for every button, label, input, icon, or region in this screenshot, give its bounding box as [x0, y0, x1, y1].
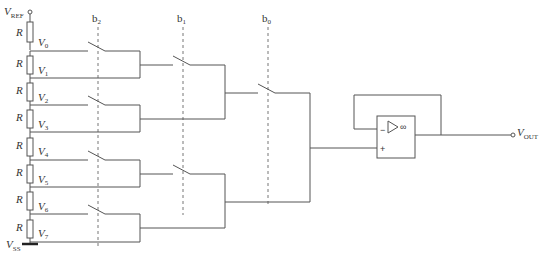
b2-label: b2 [92, 12, 102, 26]
tap-labels: V0 V1 V2 V3 V4 V5 V6 V7 [38, 36, 49, 241]
resistor-icon [27, 110, 33, 128]
resistor-icon [27, 192, 33, 210]
svg-text:V0: V0 [38, 36, 49, 50]
svg-text:R: R [15, 139, 23, 151]
resistor-icon [27, 22, 33, 42]
resistor-icon [27, 220, 33, 238]
dac-circuit-diagram: VREF R R R R R R R [0, 0, 546, 261]
svg-text:+: + [380, 144, 385, 154]
opamp-buffer: ∞ − + [354, 95, 511, 158]
svg-text:V7: V7 [38, 227, 49, 241]
svg-text:V4: V4 [38, 145, 49, 159]
resistor-icon [27, 83, 33, 101]
svg-text:VSS: VSS [6, 238, 21, 253]
svg-text:R: R [15, 84, 23, 96]
svg-text:VOUT: VOUT [517, 126, 539, 141]
vss-ground: VSS [6, 238, 38, 253]
svg-text:V2: V2 [38, 91, 49, 105]
resistor-icon [27, 165, 33, 183]
svg-text:V5: V5 [38, 173, 49, 187]
svg-text:∞: ∞ [400, 122, 406, 132]
svg-text:V3: V3 [38, 118, 49, 132]
svg-text:VREF: VREF [4, 5, 24, 20]
svg-text:R: R [15, 26, 23, 38]
switch-icon [225, 84, 310, 93]
vref-terminal: VREF [4, 5, 32, 22]
resistor-icon [27, 56, 33, 74]
svg-text:R: R [15, 221, 23, 233]
svg-text:R: R [15, 193, 23, 205]
control-lines: b2 b1 b0 [92, 12, 272, 246]
vout-terminal: VOUT [511, 126, 539, 141]
svg-text:R: R [15, 166, 23, 178]
resistor-icon [27, 138, 33, 156]
svg-text:−: − [380, 125, 385, 135]
svg-text:R: R [15, 111, 23, 123]
svg-text:V6: V6 [38, 200, 49, 214]
svg-text:R: R [15, 57, 23, 69]
b0-label: b0 [262, 12, 272, 26]
svg-text:V1: V1 [38, 64, 49, 78]
b1-label: b1 [177, 12, 187, 26]
